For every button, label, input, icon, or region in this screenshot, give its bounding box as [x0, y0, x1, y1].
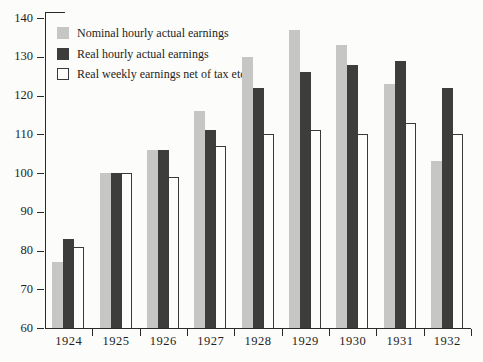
y-tick-mark — [37, 173, 44, 174]
bar-1924-series-3 — [73, 247, 84, 329]
x-tick-label: 1929 — [282, 334, 329, 348]
bar-1926-series-1 — [147, 150, 158, 328]
y-tick-label: 80 — [1, 244, 33, 257]
bar-1924-series-1 — [52, 262, 63, 328]
bar-1927-series-1 — [194, 111, 205, 328]
y-tick-mark — [37, 18, 44, 19]
y-tick-mark — [37, 134, 44, 135]
y-tick-mark — [37, 289, 44, 290]
legend-label: Real hourly actual earnings — [77, 47, 209, 61]
bar-1930-series-3 — [357, 134, 368, 329]
bar-1925-series-3 — [121, 173, 132, 329]
bar-1930-series-1 — [336, 45, 347, 328]
y-tick-label: 110 — [1, 128, 33, 141]
y-tick-mark — [37, 328, 44, 329]
x-tick-label: 1931 — [376, 334, 423, 348]
legend-label: Nominal hourly actual earnings — [77, 26, 229, 40]
y-tick-label: 90 — [1, 205, 33, 218]
y-tick-mark — [37, 96, 44, 97]
y-tick-label: 140 — [1, 12, 33, 25]
y-axis-top-cap — [45, 12, 65, 13]
x-tick-label: 1924 — [45, 334, 92, 348]
legend-swatch-1 — [57, 27, 69, 39]
bar-1928-series-1 — [242, 57, 253, 328]
bar-1932-series-3 — [452, 134, 463, 329]
bar-1931-series-1 — [384, 84, 395, 328]
y-tick-label: 100 — [1, 167, 33, 180]
x-tick-label: 1927 — [187, 334, 234, 348]
legend-item: Real hourly actual earnings — [57, 47, 209, 61]
y-tick-label: 120 — [1, 89, 33, 102]
bar-1925-series-1 — [100, 173, 111, 328]
legend-swatch-2 — [57, 48, 69, 60]
y-axis-line — [45, 12, 46, 329]
legend-item: Real weekly earnings net of tax etc. — [57, 67, 249, 81]
y-tick-label: 70 — [1, 283, 33, 296]
bar-1931-series-3 — [405, 123, 416, 329]
bar-1928-series-3 — [263, 134, 274, 329]
x-tick-label: 1930 — [329, 334, 376, 348]
x-tick-label: 1926 — [140, 334, 187, 348]
bar-1926-series-3 — [168, 177, 179, 329]
bar-1929-series-1 — [289, 30, 300, 328]
y-tick-label: 60 — [1, 322, 33, 335]
y-tick-mark — [37, 212, 44, 213]
earnings-index-bar-chart: Nominal hourly actual earningsReal hourl… — [0, 0, 483, 362]
legend-swatch-3 — [57, 68, 69, 80]
x-tick-mark — [471, 329, 472, 336]
bar-1932-series-1 — [431, 161, 442, 328]
legend-label: Real weekly earnings net of tax etc. — [77, 67, 249, 81]
x-tick-label: 1928 — [234, 334, 281, 348]
x-axis-line — [45, 328, 471, 329]
x-tick-label: 1925 — [92, 334, 139, 348]
y-tick-label: 130 — [1, 50, 33, 63]
y-tick-mark — [37, 57, 44, 58]
legend-item: Nominal hourly actual earnings — [57, 26, 229, 40]
bar-1927-series-3 — [215, 146, 226, 329]
x-tick-label: 1932 — [424, 334, 471, 348]
bar-1929-series-3 — [310, 130, 321, 329]
y-tick-mark — [37, 251, 44, 252]
